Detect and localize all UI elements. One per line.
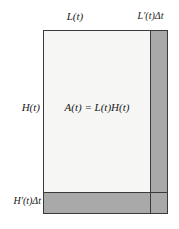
label-height-increment: H′(t)Δt [0, 196, 41, 206]
horizontal-divider-line [43, 192, 168, 193]
label-area-equation: A(t) = L(t)H(t) [44, 102, 150, 113]
bottom-increment-strip [44, 192, 167, 213]
right-increment-strip [150, 31, 167, 213]
product-rule-area-diagram: L(t) L′(t)Δt H(t) H′(t)Δt A(t) = L(t)H(t… [0, 0, 179, 229]
vertical-divider-line [150, 30, 151, 214]
label-width-increment: L′(t)Δt [122, 11, 179, 21]
label-height-main: H(t) [8, 102, 40, 113]
